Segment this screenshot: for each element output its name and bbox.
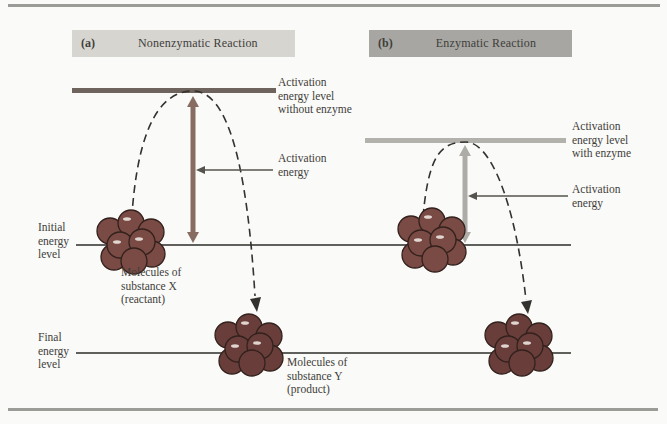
activation-energy-pointer-b bbox=[468, 192, 568, 200]
reaction-path-b-arrowhead bbox=[521, 300, 532, 314]
molecule-cluster-product-a bbox=[215, 314, 283, 376]
molecules-substance-x-label: Molecules of substance X (reactant) bbox=[121, 266, 181, 307]
activation-level-with-enzyme-label: Activation energy level with enzyme bbox=[572, 120, 631, 161]
molecule-cluster-reactant-a bbox=[97, 210, 165, 274]
molecule-cluster-product-b bbox=[485, 314, 553, 376]
initial-energy-level-label: Initial energy level bbox=[38, 221, 69, 262]
final-energy-level-label: Final energy level bbox=[38, 331, 69, 372]
activation-energy-pointer-a bbox=[196, 166, 273, 174]
molecule-cluster-reactant-b bbox=[398, 208, 466, 272]
figure-activation-energy-diagram: (a) Nonenzymatic Reaction (b) Enzymatic … bbox=[0, 0, 667, 424]
activation-energy-label-b: Activation energy bbox=[572, 183, 621, 210]
activation-energy-label-a: Activation energy bbox=[278, 152, 327, 179]
activation-level-bar-without-enzyme bbox=[72, 88, 276, 93]
reaction-path-a-arrowhead bbox=[250, 297, 261, 312]
activation-level-without-enzyme-label: Activation energy level without enzyme bbox=[278, 76, 352, 117]
molecules-substance-y-label: Molecules of substance Y (product) bbox=[287, 356, 347, 397]
